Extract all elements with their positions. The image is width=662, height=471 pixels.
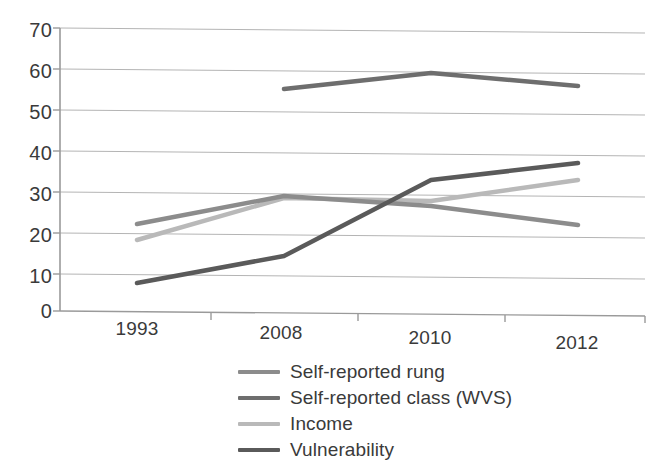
gridlines [60,28,645,279]
legend-label: Self-reported class (WVS) [290,387,512,409]
y-axis-line [53,28,60,311]
legend-item-self-reported-class-wvs: Self-reported class (WVS) [238,386,638,410]
line-chart: 70 60 50 40 30 20 10 0 1993 2008 2010 20… [0,0,662,471]
legend-label: Income [290,413,353,435]
legend-swatch-icon [238,370,280,374]
series-line-self-reported-class-wvs [284,73,578,89]
legend-item-self-reported-rung: Self-reported rung [238,360,638,384]
x-axis-line [60,311,645,323]
legend-swatch-icon [238,422,280,426]
chart-legend: Self-reported rung Self-reported class (… [238,360,638,464]
legend-item-vulnerability: Vulnerability [238,438,638,462]
legend-label: Self-reported rung [290,361,445,383]
legend-swatch-icon [238,448,280,452]
legend-swatch-icon [238,396,280,400]
legend-item-income: Income [238,412,638,436]
legend-label: Vulnerability [290,439,394,461]
